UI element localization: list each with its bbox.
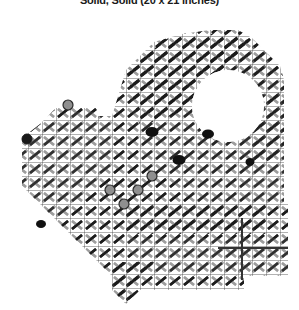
node-marker [147,171,157,181]
figure-title: Solid, Solid (20 x 21 inches) [0,0,299,7]
node-marker [22,134,32,144]
node-marker [202,130,214,139]
node-marker [246,158,255,166]
node-marker [133,185,143,195]
node-marker [105,185,115,195]
node-marker [173,155,186,165]
interior-hole [192,70,264,142]
node-marker [63,100,73,110]
principal-stress-field-svg [0,8,299,310]
plot-area [0,8,299,310]
node-marker [119,199,129,209]
node-marker [146,127,159,137]
figure-root: Solid, Solid (20 x 21 inches) [0,0,299,310]
node-marker [36,220,46,228]
